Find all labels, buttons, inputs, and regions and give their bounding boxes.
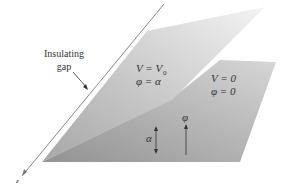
upper-plane-phi-label: φ = α <box>136 75 161 87</box>
lower-plane-phi-label: φ = 0 <box>211 85 236 97</box>
phi-angle-label: φ <box>182 111 188 123</box>
gap-pointer-arrowhead <box>83 84 88 90</box>
z-axis-label: z <box>15 177 19 185</box>
z-axis-arrowhead <box>22 169 27 176</box>
lower-plane-voltage-label: V = 0 <box>211 72 236 84</box>
upper-plane-voltage-label: V = V <box>136 62 163 74</box>
gap-label-line2: gap <box>57 61 71 72</box>
alpha-angle-label: α <box>146 132 152 144</box>
wedge-diagram: Insulating gap V = V 0 φ = α V = 0 φ = 0… <box>0 0 286 187</box>
gap-label-line1: Insulating <box>44 48 84 59</box>
upper-plane-voltage-subscript: 0 <box>163 69 167 77</box>
